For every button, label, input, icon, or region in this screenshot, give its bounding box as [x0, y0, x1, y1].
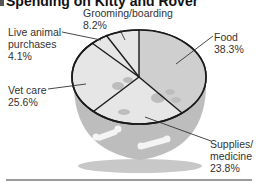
label-grooming: Grooming/boarding 8.2%: [83, 7, 173, 31]
label-supplies-name-2: medicine: [210, 150, 253, 162]
label-vet-name: Vet care: [8, 84, 47, 96]
bottom-rule: [6, 179, 252, 181]
label-supplies-value: 23.8%: [210, 162, 253, 174]
label-supplies: Supplies/ medicine 23.8%: [210, 138, 253, 174]
label-food-name: Food: [214, 31, 244, 43]
label-supplies-name-1: Supplies/: [210, 138, 253, 150]
label-live-value: 4.1%: [8, 50, 61, 62]
label-food: Food 38.3%: [214, 31, 244, 55]
label-food-value: 38.3%: [214, 43, 244, 55]
label-live-animal: Live animal purchases 4.1%: [8, 26, 61, 62]
label-vet-care: Vet care 25.6%: [8, 84, 47, 108]
label-grooming-name: Grooming/boarding: [83, 7, 173, 19]
label-live-name-2: purchases: [8, 38, 61, 50]
label-vet-value: 25.6%: [8, 96, 47, 108]
bowl-shadow: [78, 159, 202, 173]
label-grooming-value: 8.2%: [83, 19, 173, 31]
label-live-name-1: Live animal: [8, 26, 61, 38]
